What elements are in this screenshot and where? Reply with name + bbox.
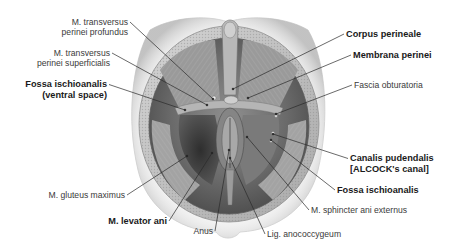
leader-dot-fossa-ischioanalis-ventral: [184, 109, 186, 111]
label-line: perinei profundus: [62, 27, 128, 37]
leader-dot-anus: [228, 149, 230, 151]
leader-dot-fascia-obturatoria: [275, 113, 277, 115]
label-transversus-superficialis: M. transversusperinei superficialis: [37, 48, 110, 68]
label-line: (ventral space): [25, 90, 107, 101]
label-fossa-ischioanalis-ventral: Fossa ischioanalis(ventral space): [25, 79, 107, 101]
label-fascia-obturatoria: Fascia obturatoria: [354, 80, 423, 90]
leader-dot-transversus-profundus: [212, 98, 214, 100]
label-transversus-profundus: M. transversusperinei profundus: [62, 17, 128, 37]
leader-dot-membrana-perinei: [247, 97, 249, 99]
label-line: Corpus perineale: [346, 29, 421, 40]
label-sphincter-ani-externus: M. sphincter ani externus: [311, 205, 407, 215]
label-line: M. transversus: [37, 48, 110, 58]
label-anus: Anus: [193, 226, 213, 236]
label-membrana-perinei: Membrana perinei: [353, 50, 432, 61]
label-corpus-perineale: Corpus perineale: [346, 29, 421, 40]
label-line: Lig. anococcygeum: [267, 229, 341, 239]
label-line: [ALCOCK's canal]: [350, 164, 434, 175]
label-line: Fascia obturatoria: [354, 80, 423, 90]
label-line: perinei superficialis: [37, 58, 110, 68]
leader-dot-fossa-ischioanalis: [270, 139, 272, 141]
leader-dot-sphincter-ani-externus: [246, 136, 248, 138]
anatomical-figure: M. transversusperinei profundusM. transv…: [0, 0, 457, 250]
label-line: Fossa ischioanalis: [25, 79, 107, 90]
label-line: M. levator ani: [108, 216, 167, 227]
leader-dot-levator-ani: [211, 152, 213, 154]
label-line: M. gluteus maximus: [49, 190, 125, 200]
label-lig-anococcygeum: Lig. anococcygeum: [267, 229, 341, 239]
label-line: Anus: [193, 226, 213, 236]
label-levator-ani: M. levator ani: [108, 216, 167, 227]
label-line: Membrana perinei: [353, 50, 432, 61]
label-line: M. transversus: [62, 17, 128, 27]
label-line: Canalis pudendalis: [350, 153, 434, 164]
label-gluteus-maximus: M. gluteus maximus: [49, 190, 125, 200]
leader-dot-canalis-pudendalis: [272, 133, 274, 135]
leader-dot-gluteus-maximus: [186, 155, 188, 157]
leader-dot-corpus-perineale: [232, 88, 234, 90]
label-canalis-pudendalis: Canalis pudendalis[ALCOCK's canal]: [350, 153, 434, 175]
leader-dot-lig-anococcygeum: [229, 157, 231, 159]
label-fossa-ischioanalis: Fossa ischioanalis: [337, 185, 419, 196]
label-line: M. sphincter ani externus: [311, 205, 407, 215]
label-line: Fossa ischioanalis: [337, 185, 419, 196]
leader-dot-transversus-superficialis: [206, 104, 208, 106]
